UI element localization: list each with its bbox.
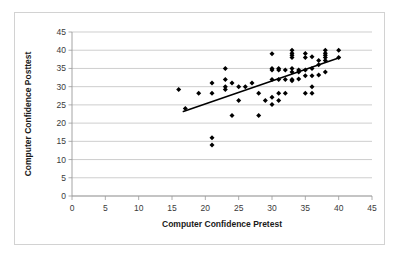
x-tick-label: 40 — [334, 203, 344, 213]
gridlines — [72, 32, 372, 196]
data-point — [303, 55, 308, 60]
data-point — [210, 91, 215, 96]
x-tick-label: 35 — [301, 203, 311, 213]
data-point — [303, 73, 308, 78]
data-point — [270, 102, 275, 107]
data-point — [323, 70, 328, 75]
data-point — [223, 66, 228, 71]
y-tick-label: 30 — [57, 82, 67, 92]
x-tick-label: 30 — [267, 203, 277, 213]
axis-lines — [72, 32, 372, 196]
data-point — [263, 98, 268, 103]
scatter-plot: 051015202530354045 051015202530354045 Co… — [15, 13, 384, 244]
data-point — [310, 84, 315, 89]
data-point — [223, 87, 228, 92]
x-tick-label: 0 — [70, 203, 75, 213]
data-point — [296, 77, 301, 82]
x-tick-label: 45 — [367, 203, 377, 213]
data-point — [230, 113, 235, 118]
data-point — [276, 91, 281, 96]
data-point — [243, 84, 248, 89]
data-point — [256, 91, 261, 96]
data-point — [250, 81, 255, 86]
data-point — [210, 142, 215, 147]
data-point — [176, 87, 181, 92]
y-axis-title: Computer Confidence Posttest — [23, 51, 33, 176]
x-axis-title: Computer Confidence Pretest — [162, 219, 282, 229]
y-tick-label: 25 — [57, 100, 67, 110]
data-point — [316, 73, 321, 78]
data-point — [316, 58, 321, 63]
x-tick-label: 25 — [234, 203, 244, 213]
data-point — [223, 77, 228, 82]
data-point — [230, 81, 235, 86]
data-point — [270, 95, 275, 100]
data-point — [303, 91, 308, 96]
x-tick-label: 10 — [134, 203, 144, 213]
y-tick-label: 5 — [61, 173, 66, 183]
y-tick-label: 10 — [57, 155, 67, 165]
figure-container: 051015202530354045 051015202530354045 Co… — [0, 0, 399, 260]
trendline-segment — [183, 58, 340, 112]
data-point — [310, 91, 315, 96]
data-point — [336, 48, 341, 53]
data-point — [210, 135, 215, 140]
y-axis-tick-labels: 051015202530354045 — [57, 27, 67, 201]
x-tick-label: 15 — [167, 203, 177, 213]
data-point — [310, 73, 315, 78]
data-point — [256, 113, 261, 118]
y-tick-label: 40 — [57, 45, 67, 55]
data-point — [270, 51, 275, 56]
x-axis-tick-labels: 051015202530354045 — [70, 203, 377, 213]
data-point — [310, 54, 315, 59]
trendline — [183, 58, 340, 112]
y-tick-label: 15 — [57, 136, 67, 146]
data-point — [236, 98, 241, 103]
y-tick-label: 45 — [57, 27, 67, 37]
data-point — [236, 84, 241, 89]
y-tick-label: 0 — [61, 191, 66, 201]
data-points — [176, 48, 341, 148]
y-tick-label: 35 — [57, 63, 67, 73]
y-tick-label: 20 — [57, 118, 67, 128]
x-tick-label: 5 — [103, 203, 108, 213]
chart-frame: 051015202530354045 051015202530354045 Co… — [14, 12, 385, 245]
x-tick-label: 20 — [201, 203, 211, 213]
data-point — [276, 98, 281, 103]
data-point — [196, 91, 201, 96]
data-point — [283, 91, 288, 96]
data-point — [210, 81, 215, 86]
